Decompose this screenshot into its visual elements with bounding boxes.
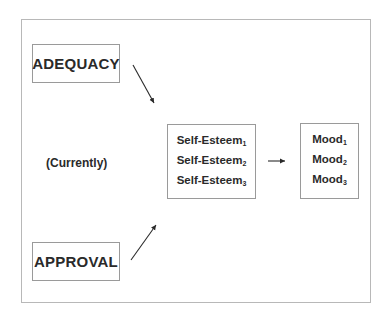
arrow-approval-to-self-esteem bbox=[131, 225, 156, 260]
edges-layer bbox=[0, 0, 392, 321]
arrow-adequacy-to-self-esteem bbox=[133, 65, 154, 103]
